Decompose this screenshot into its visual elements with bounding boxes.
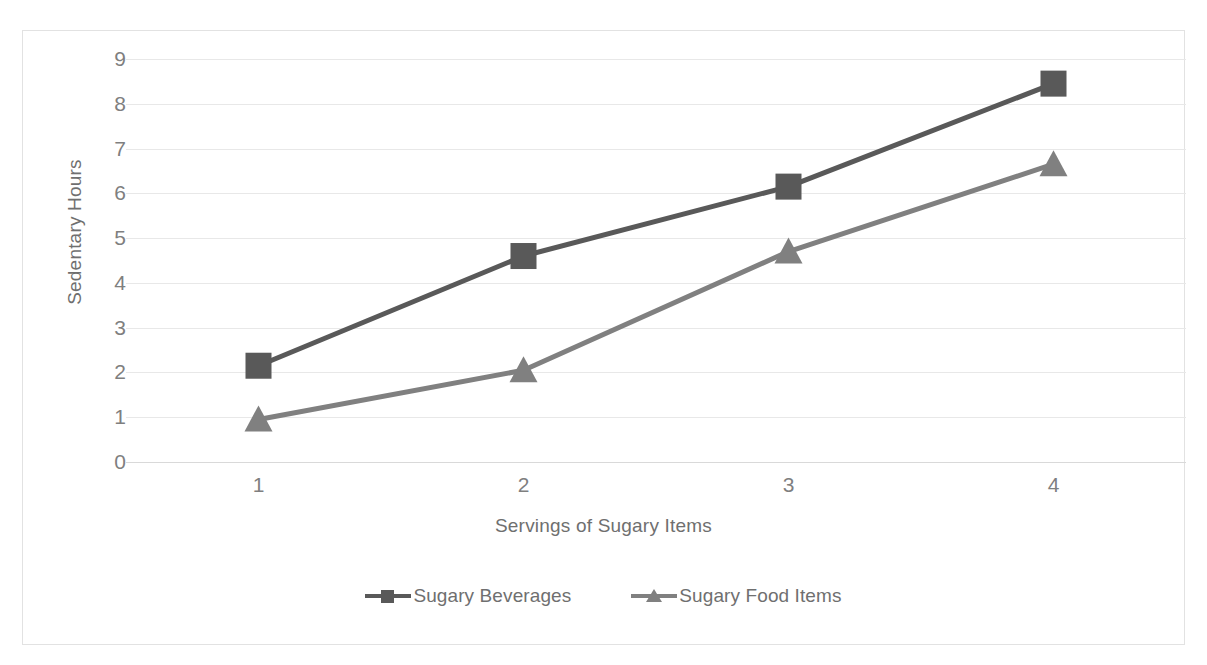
plot-area (126, 59, 1186, 462)
y-tick-label-9: 9 (86, 48, 126, 69)
gridline-0 (126, 462, 1186, 463)
gridline-9 (126, 59, 1186, 60)
gridline-2 (126, 372, 1186, 373)
x-axis-tick-labels: 1234 (126, 474, 1186, 508)
y-tick-label-1: 1 (86, 406, 126, 427)
gridline-3 (126, 328, 1186, 329)
gridline-8 (126, 104, 1186, 105)
legend-item-2[interactable]: Sugary Food Items (631, 585, 841, 607)
y-tick-label-4: 4 (86, 272, 126, 293)
legend-label: Sugary Beverages (413, 585, 571, 607)
legend-marker-square-icon (381, 590, 394, 603)
gridline-4 (126, 283, 1186, 284)
gridline-7 (126, 149, 1186, 150)
legend-marker-triangle-icon (646, 589, 662, 602)
y-axis-tick-labels: 9876543210 (63, 59, 126, 462)
x-tick-label-4: 4 (1024, 474, 1084, 495)
y-tick-label-7: 7 (86, 138, 126, 159)
chart-legend: Sugary BeveragesSugary Food Items (23, 585, 1184, 607)
y-tick-label-0: 0 (86, 451, 126, 472)
x-tick-label-1: 1 (229, 474, 289, 495)
x-tick-label-3: 3 (759, 474, 819, 495)
gridline-1 (126, 417, 1186, 418)
x-axis-title: Servings of Sugary Items (23, 515, 1184, 537)
y-tick-label-6: 6 (86, 182, 126, 203)
y-tick-label-3: 3 (86, 317, 126, 338)
y-tick-label-8: 8 (86, 93, 126, 114)
gridline-5 (126, 238, 1186, 239)
legend-item-1[interactable]: Sugary Beverages (365, 585, 571, 607)
legend-label: Sugary Food Items (679, 585, 841, 607)
x-tick-label-2: 2 (494, 474, 554, 495)
y-tick-label-2: 2 (86, 361, 126, 382)
chart-frame: Sedentary Hours 9876543210 1234 Servings… (22, 30, 1185, 645)
legend-key-triangle-icon (631, 587, 677, 605)
gridline-6 (126, 193, 1186, 194)
legend-key-square-icon (365, 587, 411, 605)
y-tick-label-5: 5 (86, 227, 126, 248)
